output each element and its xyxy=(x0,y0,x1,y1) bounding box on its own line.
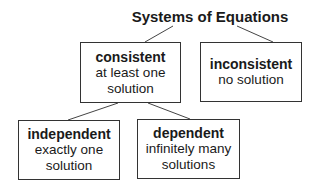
node-consistent-line1: at least one xyxy=(96,65,166,81)
node-inconsistent-heading: inconsistent xyxy=(210,56,292,72)
node-independent-heading: independent xyxy=(27,126,110,142)
node-independent: independent exactly one solution xyxy=(18,120,120,180)
node-inconsistent: inconsistent no solution xyxy=(200,42,302,102)
node-independent-line1: exactly one xyxy=(35,142,103,158)
node-dependent: dependent infinitely many solutions xyxy=(137,119,240,179)
node-dependent-line2: solutions xyxy=(162,157,215,173)
diagram-title: Systems of Equations xyxy=(120,8,300,26)
node-dependent-line1: infinitely many xyxy=(146,141,232,157)
edge-consistent-independent xyxy=(68,103,118,120)
node-consistent: consistent at least one solution xyxy=(80,42,181,103)
node-dependent-heading: dependent xyxy=(153,125,224,141)
node-inconsistent-line1: no solution xyxy=(218,72,283,88)
edge-consistent-dependent xyxy=(148,103,190,119)
edge-title-inconsistent xyxy=(237,26,273,42)
node-consistent-line2: solution xyxy=(107,81,154,97)
node-consistent-heading: consistent xyxy=(95,49,165,65)
node-independent-line2: solution xyxy=(46,158,93,174)
edge-title-consistent xyxy=(145,26,173,42)
